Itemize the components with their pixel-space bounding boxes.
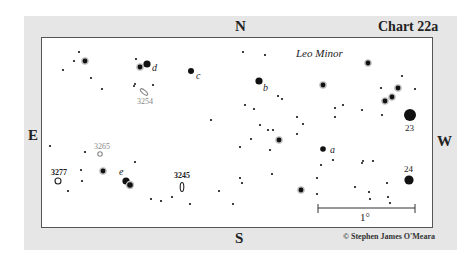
star-icon — [342, 104, 344, 106]
star-icon — [267, 129, 269, 131]
star-label-d: d — [152, 62, 158, 73]
star-icon — [127, 182, 133, 188]
galaxy-3245-icon — [180, 183, 184, 192]
star-icon — [101, 169, 106, 174]
star-icon — [316, 177, 318, 179]
star-icon — [316, 193, 318, 195]
galaxy-3254-icon — [139, 88, 148, 97]
stars-layer — [49, 51, 416, 205]
star-icon — [320, 146, 326, 152]
star-icon — [150, 198, 152, 200]
scale-bar-label: 1° — [360, 211, 370, 223]
star-icon — [354, 186, 356, 188]
star-icon — [361, 162, 363, 164]
star-icon — [277, 138, 282, 143]
star-label-c: c — [196, 70, 201, 81]
star-label-24: 24 — [404, 164, 414, 174]
galaxy-3277-icon — [55, 178, 61, 184]
star-labels-layer: dcbae2324 — [119, 62, 415, 177]
star-icon — [133, 85, 135, 87]
star-icon — [362, 160, 364, 162]
star-icon — [334, 107, 336, 109]
star-icon — [160, 200, 162, 202]
star-icon — [404, 109, 416, 121]
star-icon — [78, 51, 80, 53]
star-icon — [90, 77, 92, 79]
star-icon — [269, 149, 271, 151]
star-icon — [369, 198, 371, 200]
star-icon — [272, 129, 274, 131]
star-icon — [372, 160, 374, 162]
star-icon — [386, 182, 388, 184]
star-label-b: b — [263, 82, 268, 93]
star-icon — [188, 68, 194, 74]
star-icon — [259, 124, 261, 126]
star-icon — [414, 88, 416, 90]
star-map: Leo Minor 3254326532773245 dcbae2324 1° — [0, 0, 475, 259]
star-icon — [253, 108, 255, 110]
star-icon — [49, 145, 51, 147]
star-icon — [380, 87, 382, 89]
star-icon — [396, 86, 401, 91]
star-icon — [84, 151, 86, 153]
star-icon — [361, 109, 363, 111]
star-label-a: a — [330, 144, 335, 155]
star-icon — [401, 75, 403, 77]
star-icon — [81, 180, 83, 182]
star-icon — [152, 84, 154, 86]
star-icon — [62, 69, 64, 71]
star-icon — [255, 77, 262, 84]
star-icon — [101, 88, 103, 90]
star-icon — [67, 190, 69, 192]
star-icon — [239, 146, 241, 148]
star-icon — [241, 182, 243, 184]
star-icon — [271, 173, 273, 175]
star-icon — [296, 116, 298, 118]
star-icon — [189, 203, 191, 205]
galaxy-3265-icon — [98, 152, 102, 156]
star-icon — [404, 175, 413, 184]
star-label-23: 23 — [405, 123, 415, 133]
star-icon — [83, 59, 88, 64]
star-icon — [134, 161, 136, 163]
star-icon — [80, 169, 82, 171]
star-icon — [277, 95, 279, 97]
star-icon — [389, 202, 391, 204]
star-icon — [210, 119, 212, 121]
star-icon — [134, 83, 136, 85]
star-icon — [242, 51, 244, 53]
star-icon — [302, 123, 304, 125]
star-icon — [366, 61, 371, 66]
star-icon — [135, 58, 137, 60]
star-icon — [387, 196, 389, 198]
star-icon — [320, 164, 322, 166]
star-icon — [73, 60, 75, 62]
galaxy-3254-label: 3254 — [137, 97, 153, 106]
constellation-label: Leo Minor — [295, 47, 343, 59]
star-icon — [244, 104, 246, 106]
star-icon — [171, 196, 173, 198]
star-icon — [250, 138, 252, 140]
star-icon — [368, 191, 370, 193]
star-icon — [334, 116, 336, 118]
star-icon — [383, 99, 388, 104]
star-icon — [218, 190, 220, 192]
galaxy-3245-label: 3245 — [174, 171, 190, 180]
star-icon — [239, 177, 241, 179]
star-icon — [143, 60, 150, 67]
star-icon — [281, 98, 283, 100]
star-icon — [321, 83, 326, 88]
galaxy-3277-label: 3277 — [51, 168, 67, 177]
star-icon — [138, 65, 143, 70]
star-icon — [296, 133, 298, 135]
star-label-e: e — [119, 166, 124, 177]
star-icon — [390, 95, 395, 100]
star-icon — [381, 114, 383, 116]
star-icon — [332, 159, 334, 161]
star-icon — [232, 203, 234, 205]
star-icon — [299, 188, 304, 193]
star-icon — [264, 54, 266, 56]
galaxy-3265-label: 3265 — [94, 142, 110, 151]
